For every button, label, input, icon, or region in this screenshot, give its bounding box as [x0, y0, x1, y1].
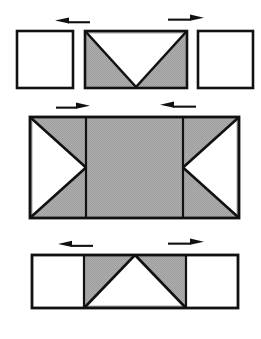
figure-root: [0, 0, 261, 339]
shaded-rect-down-notch: [85, 31, 187, 88]
middle-row: [30, 102, 239, 218]
shaded-square-up-pointing-notch: [84, 255, 186, 308]
diagram-canvas: [0, 0, 261, 339]
plain-square-right: [198, 31, 253, 88]
plain-square-left: [17, 31, 73, 88]
